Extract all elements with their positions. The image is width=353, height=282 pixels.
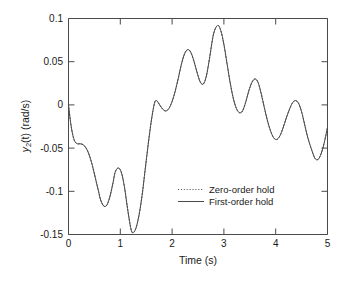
y-axis-ticks	[69, 19, 328, 235]
y-tick-label-0: 0.1	[49, 13, 63, 24]
chart-legend: Zero-order hold First-order hold	[178, 184, 274, 207]
y-tick-label-3: -0.05	[40, 143, 63, 154]
x-tick-labels: 0 1 2 3 4 5	[66, 238, 331, 249]
x-tick-label-1: 1	[118, 238, 124, 249]
y-tick-label-5: -0.15	[40, 229, 63, 240]
y-tick-label-1: 0.05	[44, 56, 64, 67]
y-tick-label-2: 0	[57, 99, 63, 110]
y-axis-title-rest: (t) (rad/s)	[19, 100, 31, 143]
y-tick-labels: 0.1 0.05 0 -0.05 -0.1 -0.15	[40, 13, 63, 240]
x-tick-label-3: 3	[221, 238, 227, 249]
y-tick-label-4: -0.1	[46, 186, 64, 197]
x-tick-label-0: 0	[66, 238, 72, 249]
y-axis-title: y2(t) (rad/s)	[19, 100, 33, 154]
x-axis-ticks	[69, 19, 328, 235]
chart-figure: 0.1 0.05 0 -0.05 -0.1 -0.15 0 1 2 3 4 5 …	[0, 0, 353, 282]
legend-label-zero-order-hold: Zero-order hold	[209, 184, 274, 195]
axes-frame	[69, 19, 328, 235]
x-tick-label-2: 2	[169, 238, 175, 249]
legend-label-first-order-hold: First-order hold	[209, 196, 273, 207]
x-tick-label-4: 4	[273, 238, 279, 249]
svg-text:y2(t) (rad/s): y2(t) (rad/s)	[19, 100, 33, 154]
x-tick-label-5: 5	[325, 238, 331, 249]
x-axis-title: Time (s)	[179, 254, 217, 266]
line-chart: 0.1 0.05 0 -0.05 -0.1 -0.15 0 1 2 3 4 5 …	[0, 0, 353, 282]
